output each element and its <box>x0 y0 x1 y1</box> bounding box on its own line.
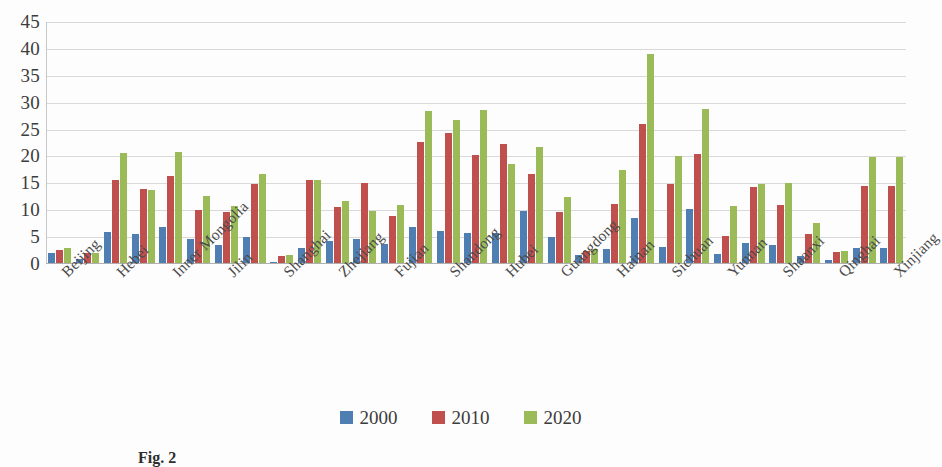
bar-group <box>434 22 462 264</box>
y-tick-label: 30 <box>21 93 40 112</box>
bar-2000 <box>548 237 555 264</box>
bar-2000 <box>880 248 887 264</box>
bar-2010 <box>888 186 895 264</box>
bar-group <box>74 22 102 264</box>
bar-2000 <box>437 231 444 264</box>
bar-group <box>517 22 545 264</box>
caption-prefix: Fig. 2 <box>138 449 176 466</box>
legend-swatch <box>432 411 445 424</box>
bar-groups <box>46 22 906 264</box>
legend-label: 2000 <box>360 408 398 427</box>
y-tick-label: 25 <box>21 120 40 139</box>
bar-group <box>46 22 74 264</box>
bar-2000 <box>659 247 666 264</box>
bar-2010 <box>777 205 784 264</box>
legend-item-2020[interactable]: 2020 <box>524 408 582 427</box>
bar-group <box>767 22 795 264</box>
bar-2010 <box>112 180 119 264</box>
bar-2010 <box>445 133 452 264</box>
bar-2000 <box>381 244 388 264</box>
bar-2010 <box>389 216 396 264</box>
bar-group <box>656 22 684 264</box>
bar-group <box>795 22 823 264</box>
y-tick-label: 5 <box>30 227 40 246</box>
legend-label: 2020 <box>544 408 582 427</box>
bar-2010 <box>556 212 563 264</box>
legend-item-2010[interactable]: 2010 <box>432 408 490 427</box>
y-axis-labels: 051015202530354045 <box>0 22 40 264</box>
figure-caption: Fig. 2 <box>138 449 176 467</box>
legend-item-2000[interactable]: 2000 <box>340 408 398 427</box>
plot-area <box>46 22 906 264</box>
bar-2010 <box>334 207 341 264</box>
bar-2010 <box>500 144 507 264</box>
bar-2020 <box>785 183 792 264</box>
bar-2010 <box>722 236 729 264</box>
bar-2020 <box>619 170 626 264</box>
bar-group <box>157 22 185 264</box>
y-tick-label: 10 <box>21 200 40 219</box>
bar-group <box>628 22 656 264</box>
bar-2020 <box>175 152 182 264</box>
bar-2010 <box>251 184 258 264</box>
bar-2020 <box>508 164 515 264</box>
bar-group <box>129 22 157 264</box>
bar-2000 <box>215 245 222 264</box>
bar-2020 <box>259 174 266 264</box>
chart-legend: 200020102020 <box>0 408 921 427</box>
bar-2020 <box>425 111 432 264</box>
bar-2000 <box>159 227 166 264</box>
bar-group <box>712 22 740 264</box>
y-tick-label: 45 <box>21 12 40 31</box>
y-tick-label: 20 <box>21 147 40 166</box>
legend-swatch <box>340 411 353 424</box>
bar-2010 <box>667 184 674 264</box>
bar-group <box>684 22 712 264</box>
bar-group <box>240 22 268 264</box>
bar-group <box>823 22 851 264</box>
bar-2020 <box>675 156 682 264</box>
bar-group <box>407 22 435 264</box>
bar-group <box>878 22 906 264</box>
bar-2000 <box>104 232 111 264</box>
bar-group <box>268 22 296 264</box>
bar-group <box>323 22 351 264</box>
y-tick-label: 35 <box>21 66 40 85</box>
bar-2000 <box>769 245 776 264</box>
bar-2020 <box>453 120 460 264</box>
bar-group <box>739 22 767 264</box>
legend-label: 2010 <box>452 408 490 427</box>
bar-2000 <box>603 249 610 264</box>
legend-swatch <box>524 411 537 424</box>
bar-2020 <box>536 147 543 264</box>
bar-2020 <box>896 157 903 264</box>
y-tick-label: 40 <box>21 39 40 58</box>
y-tick-label: 0 <box>30 254 40 273</box>
bar-group <box>101 22 129 264</box>
bar-2020 <box>647 54 654 264</box>
bar-2010 <box>167 176 174 264</box>
bar-2020 <box>120 153 127 264</box>
bar-group <box>379 22 407 264</box>
y-tick-label: 15 <box>21 173 40 192</box>
bar-group <box>545 22 573 264</box>
bar-group <box>850 22 878 264</box>
